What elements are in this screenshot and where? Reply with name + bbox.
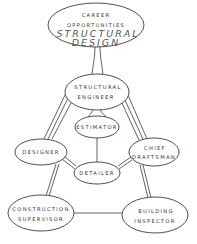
career-diagram: CAREER OPPORTUNITIES STRUCTURAL DESIGN S…	[0, 0, 197, 244]
connector-designer-cs-a	[46, 164, 56, 196]
connector-se-designer-a	[48, 98, 68, 139]
node-career-opportunities: CAREER OPPORTUNITIES STRUCTURAL DESIGN	[48, 3, 144, 48]
node-construction-supervisor: CONSTRUCTION SUPERVISOR	[8, 195, 74, 231]
connector-top-left	[92, 46, 95, 75]
structural-engineer-line1: STRUCTURAL	[74, 84, 121, 90]
building-inspector-ellipse	[122, 197, 188, 233]
building-inspector-line2: INSPECTOR	[134, 218, 175, 224]
structural-engineer-ellipse	[65, 74, 129, 110]
structural-engineer-line2: ENGINEER	[77, 94, 114, 100]
connector-se-chief-b	[121, 101, 139, 140]
connector-se-chief-a	[124, 98, 143, 139]
chief-draftsman-line1: CHIEF	[144, 145, 166, 151]
connector-chief-detailer-b	[119, 160, 132, 169]
node-structural-engineer: STRUCTURAL ENGINEER	[65, 74, 129, 110]
connector-se-designer-outer	[44, 95, 65, 139]
construction-supervisor-line1: CONSTRUCTION	[12, 206, 69, 212]
connector-designer-detailer-a	[64, 156, 76, 166]
node-estimator: ESTIMATOR	[75, 116, 119, 138]
construction-supervisor-line2: SUPERVISOR	[18, 216, 64, 222]
chief-draftsman-ellipse	[129, 138, 179, 166]
construction-supervisor-ellipse	[8, 195, 74, 231]
connector-designer-cs-b	[49, 164, 59, 196]
connector-se-chief-outer	[128, 95, 147, 139]
designer-label: DESIGNER	[22, 149, 59, 155]
chief-draftsman-line2: DRAFTSMAN	[132, 154, 176, 160]
connector-se-designer-b	[52, 101, 72, 139]
node-chief-draftsman: CHIEF DRAFTSMAN	[129, 138, 179, 166]
detailer-label: DETAILER	[79, 170, 114, 176]
building-inspector-line1: BUILDING	[138, 208, 174, 214]
connector-chief-detailer-a	[118, 157, 131, 166]
connector-top-right	[100, 46, 103, 75]
node-designer: DESIGNER	[15, 139, 67, 165]
title-line-design: DESIGN	[72, 37, 121, 48]
node-detailer: DETAILER	[74, 162, 120, 184]
node-building-inspector: BUILDING INSPECTOR	[122, 197, 188, 233]
estimator-label: ESTIMATOR	[76, 124, 117, 130]
title-line-career: CAREER	[82, 12, 111, 18]
